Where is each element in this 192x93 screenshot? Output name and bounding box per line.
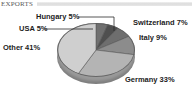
slice-label-hungary: Hungary 5% [36, 13, 79, 21]
slice-label-germany: Germany 33% [125, 76, 175, 84]
slice-label-other: Other 41% [3, 44, 40, 52]
pie-graphic [57, 23, 135, 83]
slice-label-switzerland: Switzerland 7% [133, 19, 188, 27]
slice-label-italy: Italy 9% [139, 34, 167, 42]
pie-surface [57, 23, 135, 77]
header-divider [37, 2, 192, 6]
page-title: EXPORTS [1, 0, 33, 9]
slice-label-usa: USA 5% [19, 25, 47, 33]
